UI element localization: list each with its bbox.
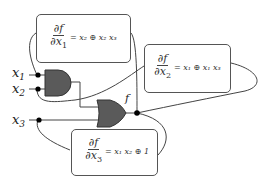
equation-rhs: = x₁ ⊕ x₁ x₃ — [174, 63, 221, 72]
fraction: ∂f ∂x1 — [50, 23, 67, 52]
output-label-f: f — [125, 92, 129, 105]
equation-x1: ∂f ∂x1 = x₂ ⊕ x₂ x₃ — [50, 23, 117, 52]
input-label-x2: x2 — [12, 81, 25, 98]
node-x3 — [36, 117, 41, 122]
input-label-x3: x3 — [12, 112, 25, 129]
equation-x3: ∂f ∂x3 = x₁ x₂ ⊕ 1 — [85, 137, 149, 166]
link-x3-box3 — [37, 120, 70, 150]
input-label-x1: x1 — [12, 65, 25, 82]
equation-rhs: = x₁ x₂ ⊕ 1 — [105, 147, 149, 156]
fraction: ∂f ∂x3 — [85, 137, 102, 166]
derivative-box-x2: ∂f ∂x2 = x₁ ⊕ x₁ x₃ — [144, 44, 231, 93]
derivative-box-x1: ∂f ∂x1 = x₂ ⊕ x₂ x₃ — [36, 14, 131, 63]
and-gate — [45, 70, 71, 96]
node-x1 — [35, 72, 40, 77]
or-gate — [97, 100, 126, 127]
derivative-box-x3: ∂f ∂x3 = x₁ x₂ ⊕ 1 — [71, 129, 158, 176]
equation-rhs: = x₂ ⊕ x₂ x₃ — [70, 33, 117, 42]
node-x2 — [35, 86, 40, 91]
node-f — [134, 110, 140, 116]
fraction: ∂f ∂x2 — [154, 53, 171, 82]
equation-x2: ∂f ∂x2 = x₁ ⊕ x₁ x₃ — [154, 53, 221, 82]
